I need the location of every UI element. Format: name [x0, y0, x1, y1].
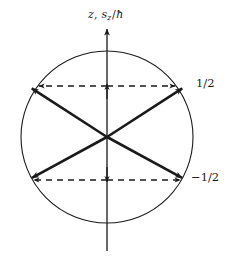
spin-vector-diagram — [0, 0, 228, 258]
axis-label-hbar: ħ — [116, 8, 123, 21]
level-label-minus-half: −1/2 — [191, 172, 219, 184]
spin-vector-upper-left — [32, 88, 107, 137]
level-label-plus-half: 1/2 — [196, 78, 215, 90]
spin-vector-upper-right — [107, 88, 182, 137]
z-axis-label: z, sz/ħ — [88, 9, 124, 22]
spin-vector-lower-right — [107, 137, 182, 178]
spin-vector-lower-left — [32, 137, 107, 178]
